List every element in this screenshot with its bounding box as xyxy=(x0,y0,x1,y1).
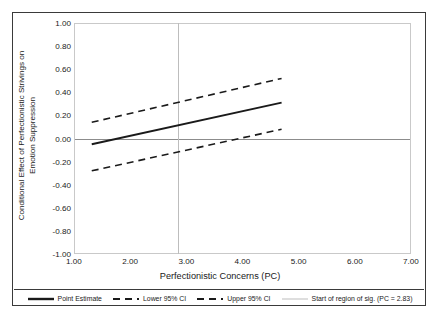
y-axis-tick-label: 1.00 xyxy=(43,19,71,28)
x-axis-tick-label: 6.00 xyxy=(347,257,363,266)
x-axis-title: Perfectionistic Concerns (PC) xyxy=(13,271,427,281)
x-axis-tick-label: 3.00 xyxy=(178,257,194,266)
x-axis-tick-label: 2.00 xyxy=(122,257,138,266)
legend-item[interactable]: Upper 95% CI xyxy=(197,295,270,303)
y-axis-title-line1: Conditional Effect of Perfectionistic St… xyxy=(18,50,29,219)
chart-series-lines xyxy=(75,23,410,254)
legend-item-label: Point Estimate xyxy=(58,295,102,302)
y-axis-tick-label: -0.20 xyxy=(43,157,71,166)
y-axis-tick-label: -0.80 xyxy=(43,226,71,235)
legend-item[interactable]: Start of region of sig. (PC = 2.83) xyxy=(282,295,413,303)
legend-swatch-icon xyxy=(28,295,54,303)
chart-legend: Point EstimateLower 95% CIUpper 95% CISt… xyxy=(13,292,427,305)
x-axis-tick-labels: 1.002.003.004.005.006.007.00 xyxy=(74,257,411,269)
y-axis-tick-label: -0.40 xyxy=(43,180,71,189)
legend-swatch-icon xyxy=(113,295,139,303)
legend-item[interactable]: Lower 95% CI xyxy=(113,295,186,303)
legend-separator xyxy=(14,289,424,290)
point-estimate-line xyxy=(92,103,282,145)
x-axis-tick-label: 1.00 xyxy=(66,257,82,266)
legend-item[interactable]: Point Estimate xyxy=(28,295,102,303)
x-axis-tick-label: 4.00 xyxy=(235,257,251,266)
legend-swatch-icon xyxy=(197,295,223,303)
legend-item-label: Start of region of sig. (PC = 2.83) xyxy=(312,295,413,302)
y-axis-tick-label: 0.00 xyxy=(43,134,71,143)
y-axis-tick-label: 0.20 xyxy=(43,111,71,120)
lower-ci-line xyxy=(92,129,282,171)
legend-item-label: Upper 95% CI xyxy=(227,295,270,302)
x-axis-tick-label: 7.00 xyxy=(403,257,419,266)
upper-ci-line xyxy=(92,78,282,122)
legend-item-label: Lower 95% CI xyxy=(143,295,186,302)
y-axis-tick-label: 0.40 xyxy=(43,88,71,97)
y-axis-tick-label: 0.80 xyxy=(43,42,71,51)
y-axis-title-line2: Emotion Suppression xyxy=(28,50,39,219)
chart-figure: Conditional Effect of Perfectionistic St… xyxy=(12,12,426,306)
y-axis-tick-label: -0.60 xyxy=(43,203,71,212)
legend-swatch-icon xyxy=(282,295,308,303)
x-axis-tick-label: 5.00 xyxy=(291,257,307,266)
y-axis-title: Conditional Effect of Perfectionistic St… xyxy=(13,13,43,257)
y-axis-tick-labels: 1.000.800.600.400.200.00-0.20-0.40-0.60-… xyxy=(40,23,71,254)
y-axis-tick-label: 0.60 xyxy=(43,65,71,74)
plot-area xyxy=(74,23,411,254)
